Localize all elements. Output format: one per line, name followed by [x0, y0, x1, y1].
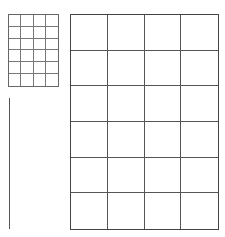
grid-cell — [21, 62, 33, 74]
grid-cell — [9, 27, 21, 39]
grid-cell — [21, 27, 33, 39]
grid-cell — [9, 74, 21, 86]
grid-cell — [71, 193, 108, 229]
grid-cell — [181, 15, 218, 51]
grid-cell — [9, 62, 21, 74]
grid-cell — [34, 74, 46, 86]
grid-cell — [71, 15, 108, 51]
grid-cell — [9, 50, 21, 62]
grid-cell — [21, 15, 33, 27]
grid-cell — [181, 51, 218, 87]
grid-cell — [145, 158, 182, 194]
grid-cell — [71, 86, 108, 122]
grid-cell — [181, 158, 218, 194]
grid-cell — [46, 74, 58, 86]
grid-cell — [71, 158, 108, 194]
grid-cell — [108, 122, 145, 158]
grid-cell — [71, 51, 108, 87]
grid-cell — [21, 74, 33, 86]
grid-cell — [34, 15, 46, 27]
grid-cell — [108, 15, 145, 51]
vertical-line — [9, 98, 10, 229]
small-grid — [8, 14, 59, 87]
grid-cell — [34, 27, 46, 39]
grid-cell — [108, 158, 145, 194]
grid-cell — [181, 193, 218, 229]
grid-cell — [34, 62, 46, 74]
grid-cell — [46, 62, 58, 74]
grid-cell — [46, 50, 58, 62]
large-grid — [70, 14, 219, 230]
grid-cell — [145, 51, 182, 87]
grid-cell — [46, 27, 58, 39]
grid-cell — [46, 15, 58, 27]
grid-cell — [34, 39, 46, 51]
grid-cell — [9, 15, 21, 27]
grid-cell — [145, 193, 182, 229]
grid-cell — [9, 39, 21, 51]
grid-cell — [145, 122, 182, 158]
grid-cell — [34, 50, 46, 62]
grid-cell — [21, 39, 33, 51]
grid-cell — [108, 86, 145, 122]
grid-cell — [21, 50, 33, 62]
grid-cell — [108, 51, 145, 87]
grid-cell — [145, 15, 182, 51]
grid-cell — [46, 39, 58, 51]
grid-cell — [108, 193, 145, 229]
grid-cell — [71, 122, 108, 158]
grid-cell — [181, 86, 218, 122]
grid-cell — [181, 122, 218, 158]
grid-cell — [145, 86, 182, 122]
